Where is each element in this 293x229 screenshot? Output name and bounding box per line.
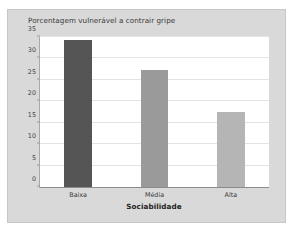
x-tick-label: Média xyxy=(145,191,164,199)
y-tick-label: 25 xyxy=(28,68,36,76)
bars-group xyxy=(40,37,269,187)
figure-panel: Porcentagem vulnerável a contrair gripe … xyxy=(7,9,286,223)
x-tick-label: Alta xyxy=(225,191,238,199)
x-axis-title: Sociabilidade xyxy=(39,202,269,211)
x-tick-label: Baixa xyxy=(69,191,87,199)
y-tick-label: 30 xyxy=(28,46,36,54)
y-tick-label: 0 xyxy=(32,175,36,183)
bar-baixa xyxy=(64,40,91,187)
plot-wrapper: 05101520253035 BaixaMédiaAlta xyxy=(39,37,269,188)
bar-alta xyxy=(217,112,244,187)
y-tick-label: 10 xyxy=(28,132,36,140)
plot-area: 05101520253035 BaixaMédiaAlta xyxy=(39,37,269,188)
y-tick-label: 20 xyxy=(28,89,36,97)
y-tick-label: 15 xyxy=(28,111,36,119)
y-tick-label: 5 xyxy=(32,154,36,162)
y-tick-label: 35 xyxy=(28,25,36,33)
chart-title: Porcentagem vulnerável a contrair gripe xyxy=(28,16,175,25)
top-caption-strip xyxy=(6,0,126,7)
bar-média xyxy=(141,70,168,187)
